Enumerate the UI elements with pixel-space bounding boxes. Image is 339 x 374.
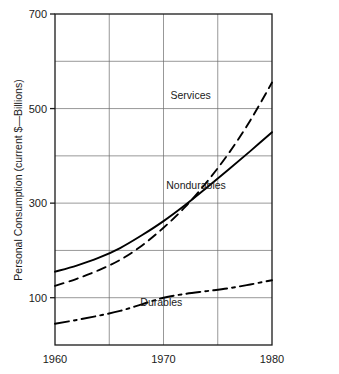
series-label-durables: Durables — [140, 296, 182, 308]
x-tick-label: 1970 — [151, 353, 175, 365]
y-tick-label: 100 — [29, 292, 47, 304]
y-tick-label: 700 — [29, 8, 47, 20]
y-tick-label: 500 — [29, 103, 47, 115]
line-chart: 196019701980 100300500700 ServicesNondur… — [0, 0, 339, 374]
series-label-nondurables: Nondurables — [166, 179, 226, 191]
x-tick-label: 1960 — [43, 353, 67, 365]
x-tick-label: 1980 — [260, 353, 284, 365]
y-tick-label: 300 — [29, 197, 47, 209]
chart-container: 196019701980 100300500700 ServicesNondur… — [0, 0, 339, 374]
series-label-services: Services — [170, 89, 210, 101]
y-axis-title: Personal Consumption (current $—Billions… — [12, 79, 24, 280]
